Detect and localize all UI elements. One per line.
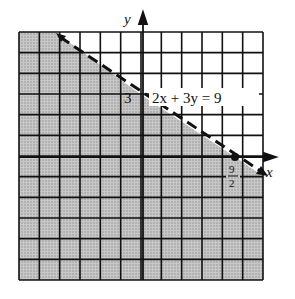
equation-label: 2x + 3y = 9 <box>152 90 221 106</box>
x-intercept-denominator: 2 <box>229 177 235 189</box>
inequality-graph: y x 3 2x + 3y = 9 9 2 <box>0 0 295 299</box>
y-axis-label: y <box>122 11 131 27</box>
x-axis-label: x <box>265 164 273 180</box>
x-intercept-point <box>231 153 239 161</box>
x-axis-arrow-icon <box>264 153 276 161</box>
y-intercept-label: 3 <box>124 90 132 106</box>
x-intercept-numerator: 9 <box>229 163 235 175</box>
y-axis-arrow-icon <box>139 12 147 24</box>
